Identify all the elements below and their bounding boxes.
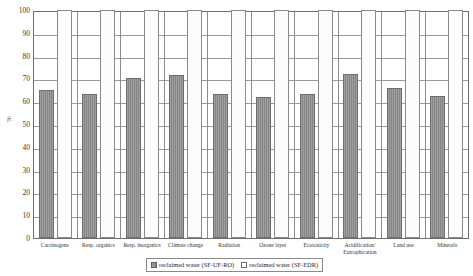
bar-group bbox=[382, 12, 426, 238]
bar-group bbox=[252, 12, 296, 238]
legend-label: reclaimed water (SF-UF-RO) bbox=[159, 261, 234, 269]
x-axis-tick-label: Acidification/ Eutrophication bbox=[338, 242, 382, 264]
x-axis-tick-label: Minerals bbox=[425, 242, 469, 264]
bar-group bbox=[165, 12, 209, 238]
bar bbox=[361, 10, 376, 238]
bar-group bbox=[426, 12, 469, 238]
y-axis-tick-label: 60 bbox=[10, 98, 30, 106]
bar-group bbox=[121, 12, 165, 238]
bar bbox=[213, 94, 228, 238]
bar bbox=[274, 10, 289, 238]
plot-area bbox=[33, 11, 469, 239]
y-axis-tick-label: 0 bbox=[10, 235, 30, 243]
y-axis-tick-label: 100 bbox=[10, 7, 30, 15]
y-axis-tick-label: 20 bbox=[10, 189, 30, 197]
bar bbox=[343, 74, 358, 238]
bar bbox=[169, 75, 184, 238]
x-axis-tick-label: Land use bbox=[382, 242, 426, 264]
y-axis-tick-label: 30 bbox=[10, 167, 30, 175]
bar bbox=[144, 10, 159, 238]
y-axis-tick-labels: 1009080706050403020100 bbox=[0, 0, 30, 276]
bar-group bbox=[78, 12, 122, 238]
bar bbox=[300, 94, 315, 238]
bar bbox=[430, 96, 445, 239]
bar-chart: % 1009080706050403020100 CarcinogensResp… bbox=[0, 0, 473, 276]
legend-swatch-icon bbox=[151, 262, 157, 268]
bar bbox=[405, 10, 420, 238]
bar bbox=[187, 10, 202, 238]
legend-swatch-icon bbox=[241, 262, 247, 268]
bar bbox=[256, 97, 271, 238]
x-axis-tick-label: Carcinogens bbox=[33, 242, 77, 264]
legend-entry: reclaimed water (SF-UF-RO) bbox=[151, 261, 234, 269]
bar bbox=[318, 10, 333, 238]
y-axis-tick-label: 10 bbox=[10, 212, 30, 220]
bar-group bbox=[339, 12, 383, 238]
bar bbox=[387, 88, 402, 238]
bar-group bbox=[208, 12, 252, 238]
y-axis-tick-label: 80 bbox=[10, 53, 30, 61]
bar bbox=[39, 90, 54, 238]
bar bbox=[57, 10, 72, 238]
y-axis-tick-label: 40 bbox=[10, 144, 30, 152]
y-axis-tick-label: 50 bbox=[10, 121, 30, 129]
bar bbox=[126, 78, 141, 238]
x-axis-tick-label: Resp. organics bbox=[77, 242, 121, 264]
bar bbox=[448, 10, 463, 238]
y-axis-tick-label: 70 bbox=[10, 75, 30, 83]
legend-entry: reclaimed water (SF-EDR) bbox=[241, 261, 318, 269]
bar-group bbox=[295, 12, 339, 238]
y-axis-tick-label: 90 bbox=[10, 30, 30, 38]
chart-legend: reclaimed water (SF-UF-RO)reclaimed wate… bbox=[146, 258, 323, 272]
bar bbox=[231, 10, 246, 238]
bar-groups bbox=[34, 12, 468, 238]
legend-label: reclaimed water (SF-EDR) bbox=[249, 261, 318, 269]
bar bbox=[100, 10, 115, 238]
bar bbox=[82, 94, 97, 238]
bar-group bbox=[34, 12, 78, 238]
